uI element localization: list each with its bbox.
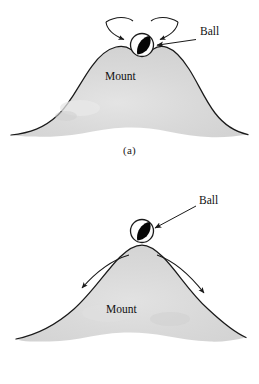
mount-shape-b bbox=[16, 245, 246, 342]
mount-label-a: Mount bbox=[105, 70, 136, 82]
arrow-inward-left-a bbox=[106, 18, 133, 22]
arrow-inward-right-a bbox=[151, 18, 178, 22]
panel-b: Ball Mount (b) bbox=[0, 185, 259, 384]
ball-label-b: Ball bbox=[199, 194, 218, 206]
arrow-inward-right-curve-a bbox=[160, 22, 178, 40]
panel-b-graphic: Ball Mount bbox=[0, 185, 259, 384]
panel-a-graphic: Ball Mount bbox=[0, 0, 259, 192]
mount-texture-blotch-b2 bbox=[150, 312, 190, 326]
panel-a: Ball Mount (a) bbox=[0, 0, 259, 192]
figure-root: Ball Mount (a) bbox=[0, 0, 259, 384]
ball-leader-line-a bbox=[157, 40, 196, 46]
ball-label-a: Ball bbox=[200, 25, 219, 37]
caption-a: (a) bbox=[0, 144, 259, 156]
mount-label-b: Mount bbox=[106, 303, 137, 315]
mount-texture-blotch-a2 bbox=[55, 111, 77, 121]
ball-leader-line-b bbox=[155, 206, 196, 228]
arrow-inward-left-curve-a bbox=[106, 22, 124, 40]
